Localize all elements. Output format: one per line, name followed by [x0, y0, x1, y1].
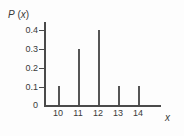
- data-spike-2: [98, 30, 100, 105]
- x-tick-label-1: 11: [69, 109, 87, 118]
- data-spike-3: [118, 86, 120, 105]
- y-axis-title-close-paren: ): [26, 9, 29, 20]
- data-spike-1: [78, 49, 80, 105]
- y-tick-label-0: 0.4: [25, 26, 38, 35]
- x-tick-label-2: 12: [89, 109, 107, 118]
- y-tick-mark-3: [39, 87, 45, 88]
- probability-distribution-chart: P (x) 0.4 0.3 0.2 0.1 0 10 11 12 13 14 x: [0, 0, 184, 136]
- y-tick-label-1: 0.3: [25, 45, 38, 54]
- y-tick-mark-0: [39, 30, 45, 31]
- x-axis-line: [44, 105, 161, 107]
- y-tick-mark-1: [39, 49, 45, 50]
- data-spike-4: [138, 86, 140, 105]
- data-spike-0: [58, 86, 60, 105]
- y-tick-mark-2: [39, 68, 45, 69]
- y-tick-label-2: 0.2: [25, 64, 38, 73]
- x-tick-label-0: 10: [49, 109, 67, 118]
- y-axis-title-symbol: P: [8, 9, 15, 20]
- x-tick-label-4: 14: [129, 109, 147, 118]
- x-axis-title: x: [165, 112, 170, 123]
- y-tick-label-4: 0: [33, 101, 38, 110]
- y-axis-line: [44, 22, 46, 107]
- y-tick-label-3: 0.1: [25, 83, 38, 92]
- x-tick-label-3: 13: [109, 109, 127, 118]
- y-axis-title: P (x): [8, 9, 29, 20]
